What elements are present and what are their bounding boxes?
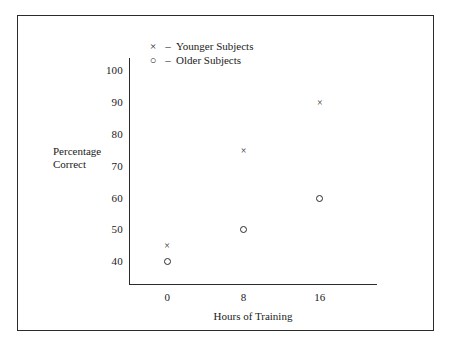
y-axis-title-line-1: Percentage <box>53 145 123 158</box>
figure-frame: × – Younger Subjects ○ – Older Subjects … <box>17 15 434 331</box>
y-tick-label: 60 <box>93 193 123 204</box>
x-tick-16: 16 <box>300 291 340 303</box>
legend-marker-circle-icon: ○ <box>146 53 160 67</box>
y-tick-90: 90 <box>88 97 123 108</box>
data-point-circle <box>164 258 171 265</box>
legend-label-younger-subjects: Younger Subjects <box>176 39 253 53</box>
x-tick-0: 0 <box>147 291 187 303</box>
legend-item-younger-subjects: × – Younger Subjects <box>146 39 253 53</box>
legend-marker-cross-icon: × <box>146 39 160 53</box>
data-point-cross: × <box>239 146 248 155</box>
y-tick-label: 90 <box>93 97 123 108</box>
legend-label-older-subjects: Older Subjects <box>176 53 241 67</box>
y-axis-line <box>129 58 130 285</box>
legend-dash-younger: – <box>160 39 176 53</box>
y-tick-label: 80 <box>93 129 123 140</box>
data-point-circle <box>240 226 247 233</box>
y-tick-50: 50 <box>88 224 123 235</box>
plot-area: × – Younger Subjects ○ – Older Subjects … <box>18 16 435 332</box>
x-axis-line <box>129 284 377 285</box>
y-tick-label: 70 <box>93 161 123 172</box>
y-tick-label: 100 <box>93 65 123 76</box>
y-tick-label: 40 <box>93 256 123 267</box>
y-tick-100: 100 <box>88 65 123 76</box>
data-point-cross: × <box>315 98 324 107</box>
y-tick-40: 40 <box>88 256 123 267</box>
y-tick-60: 60 <box>88 193 123 204</box>
y-tick-70: 70 <box>88 161 123 172</box>
legend-dash-older: – <box>160 53 176 67</box>
legend-item-older-subjects: ○ – Older Subjects <box>146 53 253 67</box>
y-tick-80: 80 <box>88 129 123 140</box>
x-axis-title: Hours of Training <box>129 310 377 323</box>
chart-legend: × – Younger Subjects ○ – Older Subjects <box>146 39 253 67</box>
data-point-cross: × <box>163 241 172 250</box>
y-tick-label: 50 <box>93 224 123 235</box>
data-point-circle <box>316 195 323 202</box>
x-tick-8: 8 <box>223 291 263 303</box>
